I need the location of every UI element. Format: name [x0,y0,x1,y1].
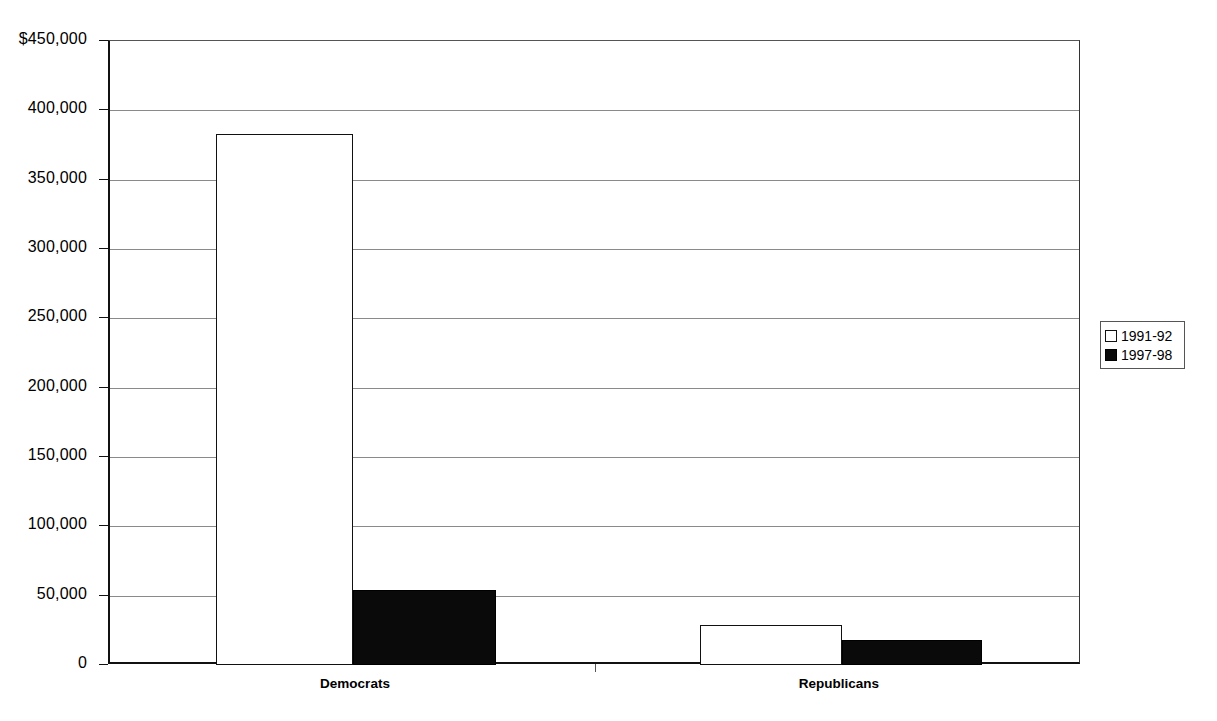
y-axis: 050,000100,000150,000200,000250,000300,0… [0,0,101,721]
plot-area [108,40,1080,664]
y-axis-tick-mark [99,456,108,457]
y-axis-tick-mark [99,248,108,249]
y-axis-tick-mark [99,664,108,665]
y-axis-tick-label: 200,000 [28,378,87,394]
y-axis-tick-mark [99,387,108,388]
filled-square-icon [1105,349,1117,361]
gridline [110,110,1079,111]
bar-democrats-1997-98 [353,590,496,665]
x-axis-category-label: Republicans [739,676,939,691]
y-axis-tick-mark [99,317,108,318]
y-axis-tick-label: $450,000 [19,31,87,47]
y-axis-tick-mark [99,595,108,596]
legend-item-label: 1997-98 [1121,348,1172,362]
bar-democrats-1991-92 [216,134,353,665]
y-axis-tick-label: 0 [78,655,87,671]
legend-item: 1991-92 [1105,326,1180,345]
y-axis-tick-label: 350,000 [28,170,87,186]
y-axis-tick-label: 300,000 [28,239,87,255]
bar-republicans-1991-92 [700,625,842,665]
y-axis-tick-label: 100,000 [28,516,87,532]
legend-item-label: 1991-92 [1121,329,1172,343]
x-axis-tick-mark [595,664,596,672]
legend-item: 1997-98 [1105,345,1180,364]
bar-republicans-1997-98 [842,640,982,665]
legend: 1991-92 1997-98 [1100,321,1185,369]
y-axis-tick-label: 400,000 [28,100,87,116]
y-axis-tick-label: 50,000 [37,586,87,602]
open-square-icon [1105,330,1117,342]
bar-chart-figure: 050,000100,000150,000200,000250,000300,0… [0,0,1217,721]
y-axis-tick-mark [99,109,108,110]
y-axis-tick-label: 250,000 [28,308,87,324]
y-axis-tick-mark [99,525,108,526]
y-axis-tick-mark [99,179,108,180]
y-axis-tick-mark [99,40,108,41]
x-axis-category-label: Democrats [255,676,455,691]
y-axis-tick-label: 150,000 [28,447,87,463]
